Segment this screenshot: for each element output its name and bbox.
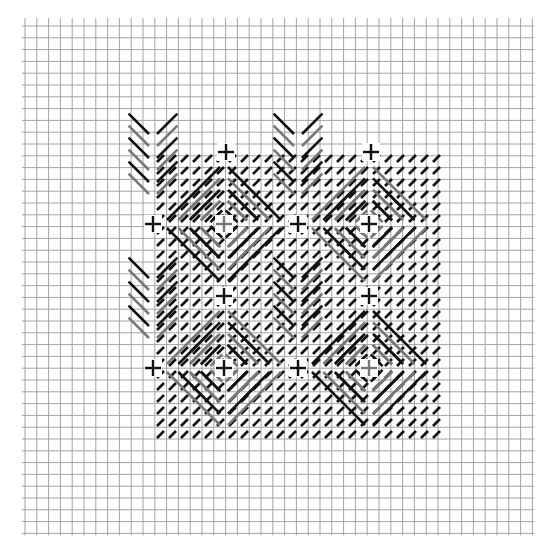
stitch (169, 335, 176, 342)
stitch (157, 395, 164, 402)
stitch (433, 251, 440, 258)
stitch (277, 335, 284, 342)
stitch (217, 431, 224, 438)
stitch (409, 263, 416, 270)
stitch (301, 407, 308, 414)
plus-marker-icon (360, 287, 378, 305)
stitch (193, 431, 200, 438)
stitch (433, 191, 440, 198)
stitch (169, 251, 176, 258)
stitch (265, 419, 272, 426)
stitch (157, 239, 164, 246)
stitch (277, 203, 284, 210)
stitch (325, 323, 332, 330)
stitch (421, 383, 428, 390)
stitch (313, 407, 320, 414)
stitch (301, 383, 308, 390)
stitch (274, 114, 294, 134)
stitch (277, 251, 284, 258)
stitch (421, 191, 428, 198)
stitch (265, 431, 272, 438)
stitch (181, 263, 188, 270)
stitch (181, 395, 188, 402)
stitch (193, 275, 200, 282)
stitch (289, 203, 296, 210)
stitch (433, 371, 440, 378)
stitch (181, 299, 188, 306)
stitch (181, 431, 188, 438)
stitch (169, 419, 176, 426)
stitch (181, 311, 188, 318)
stitch (433, 263, 440, 270)
plus-marker-icon (144, 359, 162, 377)
stitch (205, 419, 212, 426)
stitch (157, 407, 164, 414)
stitch (289, 395, 296, 402)
stitch (313, 251, 320, 258)
stitch (205, 311, 212, 318)
stitch (157, 203, 164, 210)
stitch (409, 275, 416, 282)
plus-marker-icon (289, 359, 307, 377)
stitch (265, 251, 272, 258)
stitch (169, 191, 176, 198)
stitch (205, 275, 212, 282)
stitch (409, 311, 416, 318)
stitch (421, 299, 428, 306)
stitch (265, 323, 272, 330)
stitch (433, 383, 440, 390)
stitch (325, 275, 332, 282)
stitch (193, 419, 200, 426)
stitch (129, 270, 149, 290)
stitch (193, 323, 200, 330)
stitch (313, 335, 320, 342)
stitch (409, 407, 416, 414)
stitch (325, 251, 332, 258)
stitch (129, 150, 149, 170)
stitch (253, 323, 260, 330)
stitch (265, 407, 272, 414)
stitch (289, 263, 296, 270)
stitch (241, 311, 248, 318)
stitch (241, 287, 248, 294)
stitch (302, 114, 322, 134)
stitch (325, 431, 332, 438)
stitch (433, 395, 440, 402)
stitch (433, 299, 440, 306)
stitch (157, 383, 164, 390)
stitch (313, 383, 320, 390)
stitch (253, 275, 260, 282)
stitch (433, 215, 440, 222)
plus-marker-icon (289, 215, 307, 233)
stitch (265, 275, 272, 282)
stitch (421, 287, 428, 294)
stitch (421, 323, 428, 330)
stitch (433, 227, 440, 234)
stitch (129, 162, 149, 182)
stitch (409, 251, 416, 258)
stitch (265, 335, 272, 342)
stitch (241, 431, 248, 438)
stitch (193, 407, 200, 414)
stitch (421, 407, 428, 414)
stitch (337, 323, 344, 330)
stitch (325, 263, 332, 270)
stitch (433, 275, 440, 282)
stitch (277, 419, 284, 426)
stitch (253, 287, 260, 294)
stitch (129, 138, 149, 158)
stitch (337, 419, 344, 426)
stitch (205, 431, 212, 438)
stitch (301, 419, 308, 426)
stitch (337, 299, 344, 306)
stitch (241, 275, 248, 282)
stitch (277, 383, 284, 390)
stitch (169, 383, 176, 390)
plus-marker-icon (215, 359, 233, 377)
stitch (274, 126, 294, 146)
stitch (157, 126, 177, 146)
stitch (313, 419, 320, 426)
stitch (181, 191, 188, 198)
stitch (313, 431, 320, 438)
stitch (181, 251, 188, 258)
